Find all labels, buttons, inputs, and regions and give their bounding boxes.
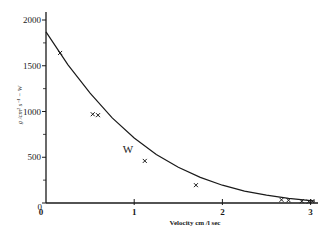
y-tick-label: 2000	[23, 15, 42, 25]
y-tick-label: 500	[28, 152, 42, 162]
data-point	[91, 112, 95, 116]
x-tick-label: 2	[220, 207, 225, 217]
annotations: W	[123, 143, 134, 155]
x-tick-label: 0	[39, 207, 44, 217]
x-ticks: 0123	[39, 199, 314, 217]
data-points	[58, 51, 314, 204]
data-point	[58, 51, 62, 55]
x-tick-label: 1	[132, 207, 137, 217]
chart: 0500100015002000 0123 W Velocity cm /l s…	[0, 0, 332, 235]
x-axis-label: Velocity cm /l sec	[170, 219, 221, 227]
x-tick-label: 3	[308, 207, 313, 217]
y-ticks: 0500100015002000	[23, 15, 46, 212]
curve-label-w: W	[123, 143, 134, 155]
data-point	[279, 198, 283, 202]
y-tick-label: 1500	[23, 61, 42, 71]
y-tick-label: 1000	[23, 107, 42, 117]
data-point	[194, 183, 198, 187]
y-axis-label: g /cm² s⁻¹ − W	[16, 85, 23, 124]
data-point	[96, 113, 100, 117]
fitted-curve	[46, 32, 315, 201]
axes	[46, 12, 318, 203]
data-point	[143, 159, 147, 163]
